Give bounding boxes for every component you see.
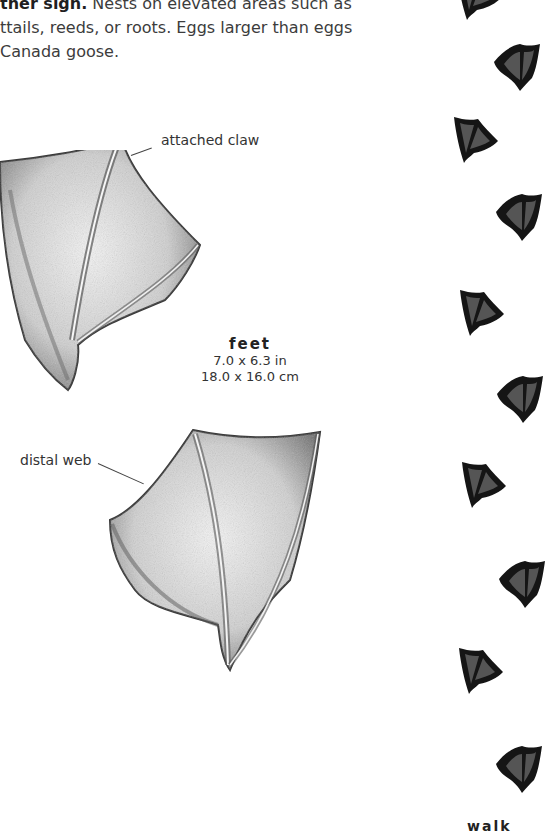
feet-caption-title: feet <box>180 335 320 353</box>
lower-foot-illustration <box>100 420 340 680</box>
paragraph-line-2: ttails, reeds, or roots. Eggs larger tha… <box>0 16 400 40</box>
distal-web-label: distal web <box>20 452 91 468</box>
track-print-left <box>460 458 510 510</box>
paragraph-line-3: Canada goose. <box>0 40 400 64</box>
track-print-left <box>455 0 505 22</box>
other-sign-heading: ther sign. <box>0 0 87 13</box>
track-print-right <box>497 557 547 609</box>
track-print-left <box>458 286 508 338</box>
feet-size-inches: 7.0 x 6.3 in <box>180 353 320 369</box>
track-print-right <box>494 190 544 242</box>
body-paragraph: ther sign. Nests on elevated areas such … <box>0 0 400 64</box>
track-print-right <box>492 40 542 92</box>
track-print-right <box>495 372 545 424</box>
track-print-right <box>494 742 544 794</box>
track-print-left <box>452 113 502 165</box>
attached-claw-label: attached claw <box>161 132 259 148</box>
paragraph-line-1: ther sign. Nests on elevated areas such … <box>0 0 400 16</box>
walk-gait-label: walk <box>467 818 512 832</box>
feet-caption: feet 7.0 x 6.3 in 18.0 x 16.0 cm <box>180 335 320 385</box>
feet-size-centimeters: 18.0 x 16.0 cm <box>180 369 320 385</box>
track-print-left <box>457 644 507 696</box>
